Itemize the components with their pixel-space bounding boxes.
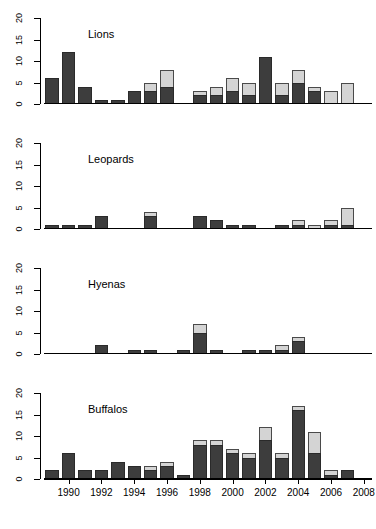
bar-slot	[339, 268, 355, 354]
bar-slot	[175, 18, 191, 104]
x-axis-tick-label: 1998	[189, 487, 211, 499]
y-axis-tick	[34, 393, 40, 394]
stacked-bar[interactable]	[160, 462, 173, 479]
bar-slot	[339, 18, 355, 104]
y-axis-tick	[34, 18, 40, 19]
y-axis-tick	[34, 40, 40, 41]
bar-slot	[356, 268, 372, 354]
bar-slot	[44, 268, 60, 354]
stacked-bar[interactable]	[193, 324, 206, 354]
bar-slot	[208, 143, 224, 229]
stacked-bar[interactable]	[210, 440, 223, 479]
bar-segment-dark	[160, 87, 173, 104]
figure-root: 05101520Lions05101520Leopards05101520Hye…	[0, 0, 376, 529]
bar-slot	[241, 393, 257, 479]
bar-slot	[307, 143, 323, 229]
stacked-bar[interactable]	[275, 83, 288, 104]
x-axis-tick-label: 2000	[221, 487, 243, 499]
y-axis-tick	[34, 143, 40, 144]
stacked-bar[interactable]	[259, 57, 272, 104]
stacked-bar[interactable]	[292, 70, 305, 104]
panel-title-leopards: Leopards	[88, 153, 134, 165]
stacked-bar[interactable]	[193, 440, 206, 479]
x-axis-tick-label: 2004	[287, 487, 309, 499]
y-axis-tick	[34, 311, 40, 312]
bar-segment-dark	[210, 445, 223, 479]
x-axis-tick	[265, 479, 266, 484]
x-axis-tick-label: 1996	[156, 487, 178, 499]
x-axis-baseline	[44, 103, 372, 104]
bar-segment-light	[292, 70, 305, 83]
bar-segment-dark	[259, 57, 272, 104]
y-axis-tick	[34, 354, 40, 355]
bar-slot	[44, 143, 60, 229]
bar-segment-light	[242, 83, 255, 96]
stacked-bar[interactable]	[242, 83, 255, 104]
bar-slot	[159, 18, 175, 104]
bar-segment-light	[308, 432, 321, 454]
stacked-bar[interactable]	[62, 52, 75, 104]
stacked-bar[interactable]	[144, 83, 157, 104]
bar-slot	[175, 143, 191, 229]
bar-slot	[241, 143, 257, 229]
stacked-bar[interactable]	[226, 78, 239, 104]
bar-segment-light	[193, 324, 206, 333]
bar-slot	[356, 393, 372, 479]
bar-segment-dark	[62, 52, 75, 104]
bar-slot	[257, 268, 273, 354]
y-axis-line	[40, 393, 41, 479]
bar-slot	[224, 143, 240, 229]
chart-panel-lions: 05101520Lions	[0, 0, 376, 125]
stacked-bar[interactable]	[308, 87, 321, 104]
bar-slot	[257, 393, 273, 479]
bar-slot	[290, 268, 306, 354]
chart-panel-leopards: 05101520Leopards	[0, 125, 376, 250]
stacked-bar[interactable]	[308, 432, 321, 479]
bar-slot	[60, 18, 76, 104]
bar-segment-dark	[242, 458, 255, 480]
bar-slot	[175, 268, 191, 354]
stacked-bar[interactable]	[341, 208, 354, 229]
y-axis-tick	[34, 208, 40, 209]
bar-segment-light	[259, 427, 272, 440]
stacked-bar[interactable]	[259, 427, 272, 479]
stacked-bar[interactable]	[242, 453, 255, 479]
stacked-bar[interactable]	[160, 70, 173, 104]
panel-stack: 05101520Lions05101520Leopards05101520Hye…	[0, 0, 376, 529]
bar-slot	[44, 393, 60, 479]
bar-slot	[192, 143, 208, 229]
x-axis-tick	[298, 479, 299, 484]
bar-slot	[159, 393, 175, 479]
bar-slot	[257, 143, 273, 229]
stacked-bar[interactable]	[62, 453, 75, 479]
stacked-bar[interactable]	[144, 212, 157, 229]
stacked-bar[interactable]	[210, 87, 223, 104]
bar-segment-dark	[193, 333, 206, 355]
bar-slot	[126, 393, 142, 479]
y-axis-tick	[34, 165, 40, 166]
bar-segment-dark	[292, 83, 305, 105]
y-axis-tick	[34, 290, 40, 291]
x-axis-tick	[69, 479, 70, 484]
stacked-bar[interactable]	[292, 406, 305, 479]
bar-slot	[44, 18, 60, 104]
stacked-bar[interactable]	[292, 337, 305, 354]
y-axis-tick	[34, 83, 40, 84]
bar-slot	[192, 393, 208, 479]
stacked-bar[interactable]	[275, 453, 288, 479]
stacked-bar[interactable]	[78, 87, 91, 104]
bar-segment-dark	[292, 410, 305, 479]
chart-panel-buffalos: 05101520Buffalos199019921994199619982000…	[0, 375, 376, 529]
y-axis-tick	[34, 61, 40, 62]
stacked-bar[interactable]	[226, 449, 239, 479]
bar-slot	[60, 268, 76, 354]
stacked-bar[interactable]	[111, 462, 124, 479]
stacked-bar[interactable]	[341, 83, 354, 105]
bar-slot	[307, 393, 323, 479]
bar-slot	[224, 18, 240, 104]
bar-slot	[290, 143, 306, 229]
x-axis-tick	[200, 479, 201, 484]
stacked-bar[interactable]	[45, 78, 58, 104]
y-axis-tick	[34, 333, 40, 334]
y-axis-tick	[34, 458, 40, 459]
